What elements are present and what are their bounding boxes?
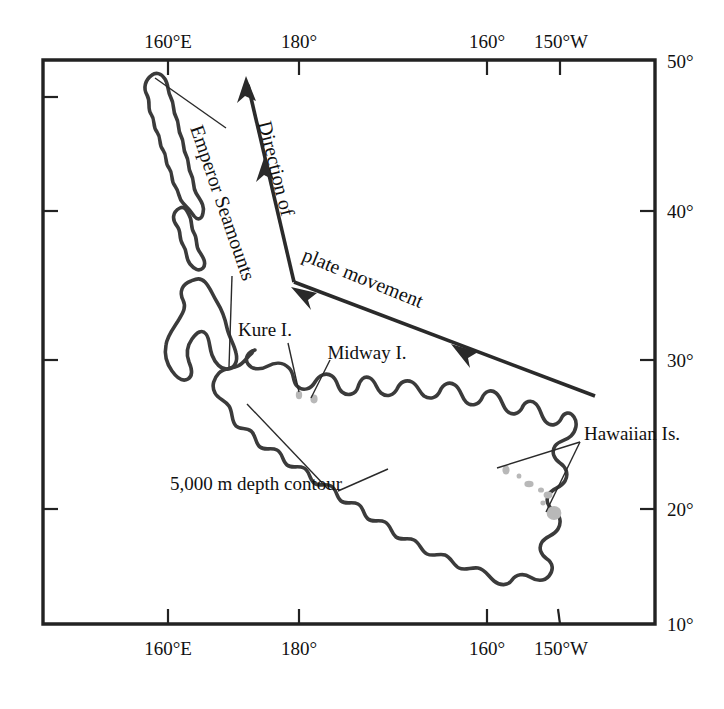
- arrow-shaft-east: [294, 282, 595, 396]
- arrow-head-north: [237, 76, 256, 103]
- leader-midway: [311, 360, 330, 398]
- map-text-labels: Emperor Seamounts Direction of plate mov…: [170, 119, 680, 494]
- top-axis-label-2: 160°: [469, 31, 505, 52]
- island-dot-lanai: [540, 501, 545, 506]
- hawaiian-ridge-depth-contour: [213, 350, 576, 585]
- top-axis-labels: 160°E 180° 160° 150°W: [144, 31, 588, 52]
- left-axis-ticks: [43, 97, 58, 509]
- island-dot-hawaii: [547, 506, 562, 520]
- island-dot-niihau: [517, 473, 522, 478]
- right-axis-label-30: 30°: [667, 350, 694, 371]
- leader-emperor-north: [155, 78, 226, 128]
- top-axis-label-3: 150°W: [534, 31, 588, 52]
- leader-hawaiian-upper: [497, 442, 580, 468]
- label-hawaiian-islands: Hawaiian Is.: [584, 423, 680, 444]
- island-dot-kure: [296, 391, 302, 399]
- label-plate-movement: plate movement: [299, 243, 427, 313]
- depth-contour-5000m: [213, 350, 576, 585]
- top-axis-label-1: 180°: [281, 31, 317, 52]
- right-axis-label-20: 20°: [667, 499, 694, 520]
- right-axis-label-50: 50°: [667, 51, 694, 72]
- emperor-contour-segment-3: [165, 279, 236, 380]
- bottom-axis-label-1: 180°: [281, 638, 317, 659]
- bottom-axis-labels: 160°E 180° 160° 150°W: [144, 638, 588, 659]
- plate-movement-arrow: [237, 76, 595, 396]
- leader-depth-contour-lower: [338, 469, 388, 491]
- label-kure-island: Kure I.: [238, 319, 292, 340]
- right-axis-ticks: [640, 211, 655, 509]
- right-axis-label-10: 10°: [667, 614, 694, 635]
- leader-lines: [155, 78, 580, 512]
- leader-hawaiian-lower: [546, 442, 580, 512]
- bottom-tick-150W: [558, 609, 560, 624]
- bottom-axis-ticks: [168, 609, 560, 624]
- label-emperor-seamounts: Emperor Seamounts: [185, 122, 260, 284]
- bottom-axis-label-2: 160°: [469, 638, 505, 659]
- island-dot-kauai: [502, 465, 509, 474]
- top-axis-label-0: 160°E: [144, 31, 192, 52]
- right-axis-label-40: 40°: [667, 201, 694, 222]
- bottom-axis-label-3: 150°W: [534, 638, 588, 659]
- top-axis-ticks: [168, 60, 560, 75]
- island-dot-molokai: [538, 487, 544, 492]
- map-canvas: 160°E 180° 160° 150°W 160°E 180° 160° 15…: [0, 0, 724, 709]
- hawaiian-emperor-seamount-map: 160°E 180° 160° 150°W 160°E 180° 160° 15…: [0, 0, 724, 709]
- island-dot-maui: [544, 492, 553, 499]
- right-axis-labels: 50° 40° 30° 20° 10°: [667, 51, 694, 635]
- island-dot-oahu: [524, 481, 533, 487]
- emperor-seamount-contour-south: [165, 279, 236, 380]
- label-depth-contour: 5,000 m depth contour: [170, 473, 343, 494]
- label-midway-island: Midway I.: [327, 342, 406, 363]
- bottom-axis-label-0: 160°E: [144, 638, 192, 659]
- leader-emperor-south: [229, 276, 232, 367]
